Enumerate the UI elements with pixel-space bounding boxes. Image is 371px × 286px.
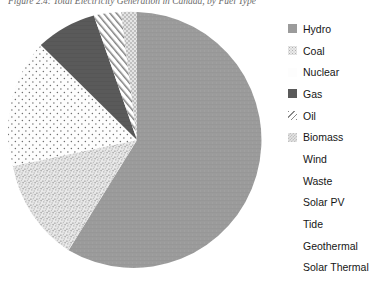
legend-item-waste[interactable]: Waste xyxy=(288,170,371,192)
legend-label-gas: Gas xyxy=(303,88,322,100)
legend-label-coal: Coal xyxy=(303,45,325,57)
legend-swatch-solar-pv xyxy=(288,198,297,207)
legend-item-geothermal[interactable]: Geothermal xyxy=(288,235,371,257)
pie-chart-svg xyxy=(0,0,280,286)
legend-swatch-waste xyxy=(288,176,297,185)
legend-item-tide[interactable]: Tide xyxy=(288,213,371,235)
legend-item-nuclear[interactable]: Nuclear xyxy=(288,61,371,83)
legend-swatch-oil xyxy=(288,111,297,120)
legend-swatch-hydro xyxy=(288,24,297,33)
legend-item-coal[interactable]: Coal xyxy=(288,40,371,62)
legend-swatch-nuclear xyxy=(288,68,297,77)
legend-label-nuclear: Nuclear xyxy=(303,66,339,78)
legend-label-wind: Wind xyxy=(303,153,327,165)
pie-chart xyxy=(0,0,280,286)
legend-label-geothermal: Geothermal xyxy=(303,240,358,252)
legend-swatch-geothermal xyxy=(288,241,297,250)
legend-swatch-gas xyxy=(288,89,297,98)
legend-swatch-solar-thermal xyxy=(288,263,297,272)
chart-legend: Hydro Coal Nuclear Gas Oil Biomass Wind … xyxy=(288,18,371,278)
legend-item-oil[interactable]: Oil xyxy=(288,105,371,127)
legend-label-hydro: Hydro xyxy=(303,23,331,35)
legend-label-solar-thermal: Solar Thermal xyxy=(303,261,369,273)
legend-item-solar-pv[interactable]: Solar PV xyxy=(288,192,371,214)
legend-swatch-biomass xyxy=(288,133,297,142)
legend-label-waste: Waste xyxy=(303,175,332,187)
legend-label-oil: Oil xyxy=(303,110,316,122)
legend-item-biomass[interactable]: Biomass xyxy=(288,126,371,148)
legend-item-solar-thermal[interactable]: Solar Thermal xyxy=(288,257,371,279)
legend-label-biomass: Biomass xyxy=(303,131,343,143)
legend-label-tide: Tide xyxy=(303,218,323,230)
legend-swatch-wind xyxy=(288,154,297,163)
legend-item-gas[interactable]: Gas xyxy=(288,83,371,105)
legend-item-hydro[interactable]: Hydro xyxy=(288,18,371,40)
legend-swatch-coal xyxy=(288,46,297,55)
legend-swatch-tide xyxy=(288,220,297,229)
legend-item-wind[interactable]: Wind xyxy=(288,148,371,170)
legend-label-solar-pv: Solar PV xyxy=(303,196,344,208)
